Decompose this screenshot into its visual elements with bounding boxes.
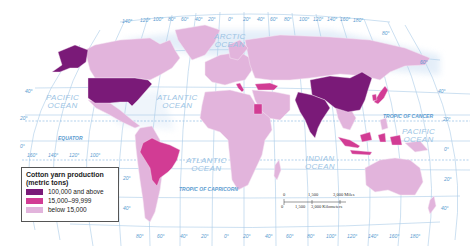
scale-km-0: 0 [281, 204, 283, 209]
lon-label: 160° [389, 234, 399, 239]
lon-label: 100° [90, 153, 100, 158]
lat-label: 40° [25, 89, 33, 94]
cotton-production-map: ARCTIC OCEAN PACIFIC OCEAN ATLANTIC OCEA… [0, 0, 474, 251]
lon-label: 120° [140, 18, 150, 23]
lon-label: 140° [327, 17, 337, 22]
lon-label: 100° [299, 17, 309, 22]
lat-label: 40° [123, 206, 131, 211]
map-legend: Cotton yarn production (metric tons) 100… [21, 167, 119, 222]
lon-label: 0° [228, 17, 233, 22]
atlantic-ocean-south-label: ATLANTIC OCEAN [186, 157, 226, 173]
alaska [52, 45, 88, 72]
legend-title-line2: (metric tons) [26, 179, 114, 187]
scale-bar: 0 1,500 3,000 Miles 0 1,500 3,000 Kilome… [281, 186, 391, 216]
legend-label-medium: 15,000–99,999 [48, 197, 91, 204]
lon-label: 60° [157, 234, 165, 239]
legend-label-high: 100,000 and above [48, 188, 104, 195]
lon-label: 60° [286, 234, 294, 239]
lon-label: 160° [340, 17, 350, 22]
lat-label: 60° [420, 60, 428, 65]
java [350, 150, 372, 155]
legend-item-medium: 15,000–99,999 [26, 197, 114, 204]
lon-label: 40° [257, 17, 265, 22]
lon-label: 80° [168, 17, 176, 22]
scale-km-3000: 3,000 Kilometers [311, 204, 342, 209]
legend-item-high: 100,000 and above [26, 188, 114, 195]
atlantic-north-label-line2: OCEAN [157, 102, 197, 110]
turkey [255, 83, 278, 90]
legend-label-low: below 15,000 [48, 206, 87, 213]
lon-label: 20° [243, 17, 251, 22]
arctic-label-line2: OCEAN [214, 41, 246, 49]
lat-label: 20° [443, 117, 451, 122]
lon-label: 140° [48, 153, 58, 158]
lon-label: 20° [243, 234, 251, 239]
lat-label: 20° [123, 176, 131, 181]
sumatra [338, 137, 360, 148]
lat-label: 20° [20, 116, 28, 121]
lon-label: 20° [201, 234, 209, 239]
sulawesi [378, 133, 386, 142]
lon-label: 140° [122, 19, 132, 24]
lon-label: 120° [313, 17, 323, 22]
lon-label: 180° [410, 234, 420, 239]
lon-label: 180° [353, 18, 363, 23]
lon-label: 120° [347, 234, 357, 239]
legend-swatch-medium [26, 198, 43, 204]
lon-label: 80° [136, 234, 144, 239]
lon-label: 20° [208, 17, 216, 22]
scale-miles-1500: 1,500 [308, 192, 318, 197]
lat-label: 0° [444, 147, 449, 152]
atlantic-ocean-north-label: ATLANTIC OCEAN [157, 94, 197, 110]
egypt [254, 104, 262, 114]
pacific-east-label-line2: OCEAN [402, 136, 435, 144]
legend-swatch-high [26, 189, 43, 195]
papua [390, 135, 402, 145]
legend-title-line1: Cotton yarn production [26, 171, 114, 179]
lon-label: 160° [27, 153, 37, 158]
korea [372, 94, 377, 101]
lon-label: 40° [195, 17, 203, 22]
legend-item-low: below 15,000 [26, 206, 114, 213]
lat-label: 20° [444, 177, 452, 182]
pacific-ocean-east-label: PACIFIC OCEAN [402, 128, 435, 144]
atlantic-south-label-line2: OCEAN [186, 165, 226, 173]
lon-label: 0° [224, 234, 229, 239]
lon-label: 80° [284, 17, 292, 22]
lon-label: 40° [180, 234, 188, 239]
lon-label: 80° [307, 234, 315, 239]
indian-ocean-label: INDIAN OCEAN [305, 155, 335, 171]
lon-label: 60° [181, 17, 189, 22]
lon-label: 40° [265, 234, 273, 239]
tropic-of-capricorn-label: TROPIC OF CAPRICORN [179, 187, 238, 192]
equator-label: EQUATOR [58, 136, 83, 141]
lat-label: 40° [438, 89, 446, 94]
scale-miles-3000: 3,000 Miles [333, 192, 355, 197]
lat-label: 40° [441, 206, 449, 211]
lat-label: 0° [20, 144, 25, 149]
pacific-west-label-line2: OCEAN [46, 102, 79, 110]
borneo [360, 132, 372, 142]
lon-label: 120° [69, 153, 79, 158]
lon-label: 140° [368, 234, 378, 239]
legend-swatch-low [26, 207, 43, 213]
lon-label: 60° [270, 17, 278, 22]
indian-label-line2: OCEAN [305, 163, 335, 171]
tropic-of-cancer-label: TROPIC OF CANCER [383, 114, 433, 119]
lat-label: 80° [382, 31, 390, 36]
scale-km-1500: 1,500 [295, 204, 305, 209]
lon-label: 100° [153, 17, 163, 22]
lon-label: 100° [326, 234, 336, 239]
scale-miles-0: 0 [283, 192, 285, 197]
pacific-ocean-west-label: PACIFIC OCEAN [46, 94, 79, 110]
arctic-ocean-label: ARCTIC OCEAN [214, 33, 246, 49]
